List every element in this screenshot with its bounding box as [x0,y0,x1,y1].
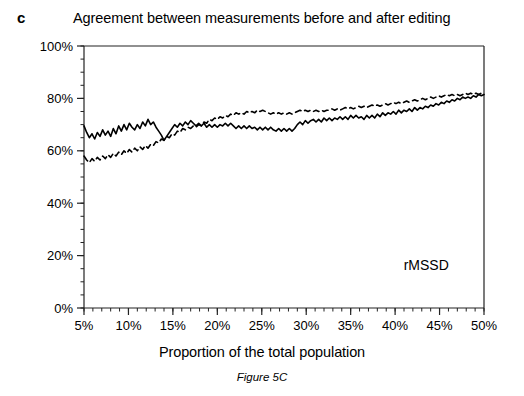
svg-text:40%: 40% [47,196,73,211]
x-axis-major-ticks [84,308,484,315]
y-axis-minor-ticks [81,46,85,308]
svg-text:15%: 15% [160,318,186,333]
svg-text:40%: 40% [382,318,408,333]
svg-text:25%: 25% [249,318,275,333]
figure-caption: Figure 5C [0,372,524,384]
line-chart-plot: 0%20%40%60%80%100% 5%10%15%20%25%30%35%4… [0,0,524,340]
x-axis-tick-labels: 5%10%15%20%25%30%35%40%45%50% [75,318,498,333]
svg-text:10%: 10% [115,318,141,333]
svg-text:35%: 35% [338,318,364,333]
svg-text:rMSSD: rMSSD [404,257,449,273]
svg-text:50%: 50% [471,318,497,333]
series-line-before-editing [84,94,484,140]
svg-text:30%: 30% [293,318,319,333]
x-axis-title: Proportion of the total population [0,345,524,360]
svg-text:100%: 100% [40,39,74,54]
svg-text:5%: 5% [75,318,94,333]
svg-text:0%: 0% [54,301,73,316]
y-axis-tick-labels: 0%20%40%60%80%100% [40,39,74,316]
figure-5c: c Agreement between measurements before … [0,0,524,396]
svg-text:20%: 20% [204,318,230,333]
svg-text:80%: 80% [47,91,73,106]
svg-text:20%: 20% [47,248,73,263]
svg-text:60%: 60% [47,143,73,158]
svg-text:45%: 45% [427,318,453,333]
chart-annotations: rMSSD [404,257,449,273]
data-series-group [84,93,484,162]
